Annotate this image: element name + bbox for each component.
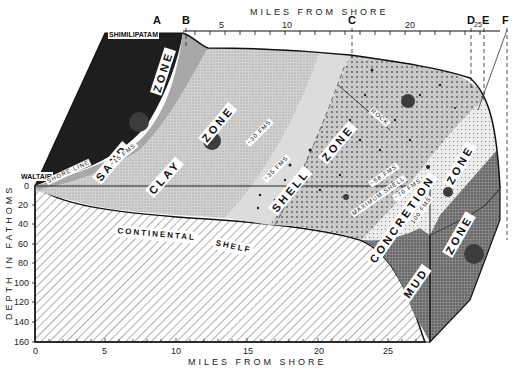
bottom-axis-title: MILES FROM SHORE	[188, 357, 327, 367]
depth-tick-100: 100	[14, 278, 29, 288]
bottom-tick-20: 20	[314, 346, 324, 356]
depth-tick-120: 120	[14, 297, 29, 307]
left-axis-title: DEPTH IN FATHOMS	[4, 185, 14, 320]
place-shimilipatam: SHIMILIPATAM	[108, 30, 159, 39]
top-tick-25: 25	[474, 21, 482, 28]
top-tick-10: 10	[282, 20, 292, 30]
depth-tick-0: 0	[24, 181, 29, 191]
depth-tick-140: 140	[14, 317, 29, 327]
bottom-tick-0: 0	[33, 346, 38, 356]
block-diagram	[0, 0, 518, 371]
section-marker-e: E	[482, 14, 489, 26]
section-marker-c: C	[348, 14, 356, 26]
bottom-tick-15: 15	[243, 346, 253, 356]
section-marker-d: D	[467, 14, 475, 26]
section-marker-a: A	[153, 14, 161, 26]
depth-tick-60: 60	[18, 239, 28, 249]
section-marker-b: B	[182, 14, 190, 26]
depth-tick-40: 40	[18, 219, 28, 229]
bottom-tick-10: 10	[171, 346, 181, 356]
top-axis-title: MILES FROM SHORE	[250, 7, 389, 17]
depth-tick-80: 80	[18, 258, 28, 268]
section-marker-f: F	[502, 14, 509, 26]
bottom-tick-25: 25	[383, 346, 393, 356]
depth-tick-160: 160	[14, 337, 29, 347]
top-tick-5: 5	[219, 20, 224, 30]
depth-tick-20: 20	[18, 200, 28, 210]
bottom-tick-5: 5	[102, 346, 107, 356]
top-tick-20: 20	[405, 20, 415, 30]
